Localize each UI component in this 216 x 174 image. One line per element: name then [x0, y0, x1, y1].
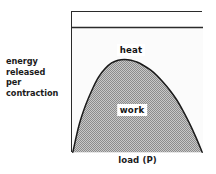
- y-axis-label-line-3: per: [6, 77, 70, 88]
- y-axis-label: energy released per contraction: [6, 56, 70, 98]
- y-axis-label-line-4: contraction: [6, 88, 70, 99]
- y-axis-label-line-2: released: [6, 67, 70, 78]
- y-axis-label-line-1: energy: [6, 56, 70, 67]
- plot-canvas: [72, 12, 203, 153]
- figure-energy-vs-load: energy released per contraction heat wor…: [0, 0, 216, 174]
- plot-frame: heat work: [71, 11, 202, 152]
- region-label-work: work: [117, 104, 147, 116]
- x-axis-label: load (P): [71, 155, 204, 165]
- region-label-heat: heat: [117, 44, 145, 56]
